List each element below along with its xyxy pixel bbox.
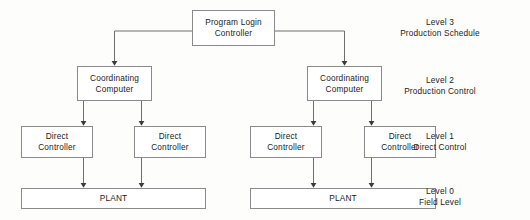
node-label-plant-left: PLANT: [100, 193, 128, 204]
connector-login-to-coord-right: [275, 31, 345, 62]
level-label-level-3-line2: Production Schedule: [400, 28, 480, 39]
level-label-level-1-line1: Level 1: [413, 131, 466, 142]
level-label-level-0-line2: Field Level: [419, 197, 461, 208]
connector-login-to-coord-left: [115, 31, 193, 62]
connector-group: [84, 31, 372, 184]
node-direct-controller-1: Direct Controller: [21, 126, 93, 158]
level-label-level-2-line2: Production Control: [404, 86, 476, 97]
node-label-plant-right: PLANT: [329, 193, 357, 204]
node-label-direct-controller-3: Direct Controller: [267, 131, 305, 153]
level-label-level-1: Level 1Direct Control: [413, 131, 466, 153]
level-label-level-0: Level 0Field Level: [419, 186, 461, 208]
control-hierarchy-diagram: Program Login ControllerCoordinating Com…: [0, 0, 530, 220]
node-label-coordinating-computer-left: Coordinating Computer: [90, 73, 139, 95]
level-label-level-3-line1: Level 3: [400, 17, 480, 28]
node-label-direct-controller-1: Direct Controller: [38, 131, 76, 153]
level-label-level-3: Level 3Production Schedule: [400, 17, 480, 39]
level-label-level-1-line2: Direct Control: [413, 142, 466, 153]
node-direct-controller-3: Direct Controller: [250, 126, 322, 158]
node-coordinating-computer-right: Coordinating Computer: [307, 66, 382, 101]
node-direct-controller-2: Direct Controller: [134, 126, 206, 158]
node-coordinating-computer-left: Coordinating Computer: [77, 66, 152, 101]
level-label-level-2-line1: Level 2: [404, 75, 476, 86]
level-label-level-0-line1: Level 0: [419, 186, 461, 197]
node-label-program-login-controller: Program Login Controller: [205, 17, 262, 39]
level-label-level-2: Level 2Production Control: [404, 75, 476, 97]
node-program-login-controller: Program Login Controller: [192, 10, 275, 46]
node-plant-right: PLANT: [250, 188, 436, 209]
node-plant-left: PLANT: [21, 188, 206, 209]
node-label-coordinating-computer-right: Coordinating Computer: [320, 73, 369, 95]
node-label-direct-controller-2: Direct Controller: [151, 131, 189, 153]
